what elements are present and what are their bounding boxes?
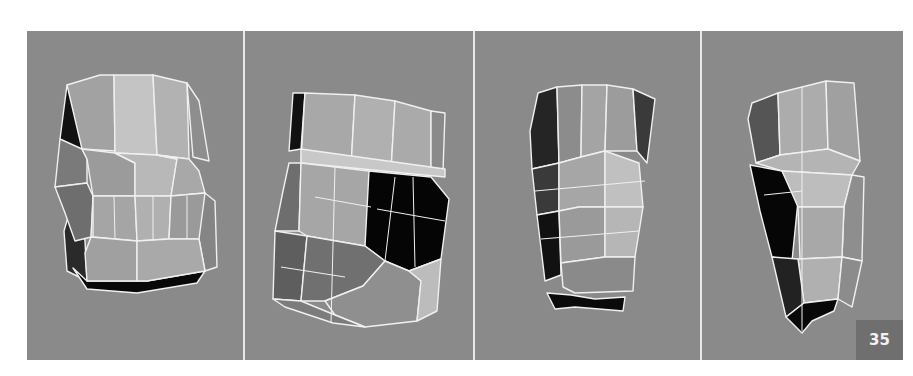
mesh-side-view-icon [702,31,903,360]
mesh-three-quarter-view-icon [245,31,473,360]
viewport-panel-1 [27,31,243,360]
figure-number-badge: 35 [856,320,903,360]
viewport-panel-4 [702,31,903,360]
mesh-front-view-icon [27,31,243,360]
viewport-strip: 35 [27,31,903,360]
viewport-panel-2 [245,31,473,360]
mesh-back-view-icon [475,31,700,360]
viewport-panel-3 [475,31,700,360]
